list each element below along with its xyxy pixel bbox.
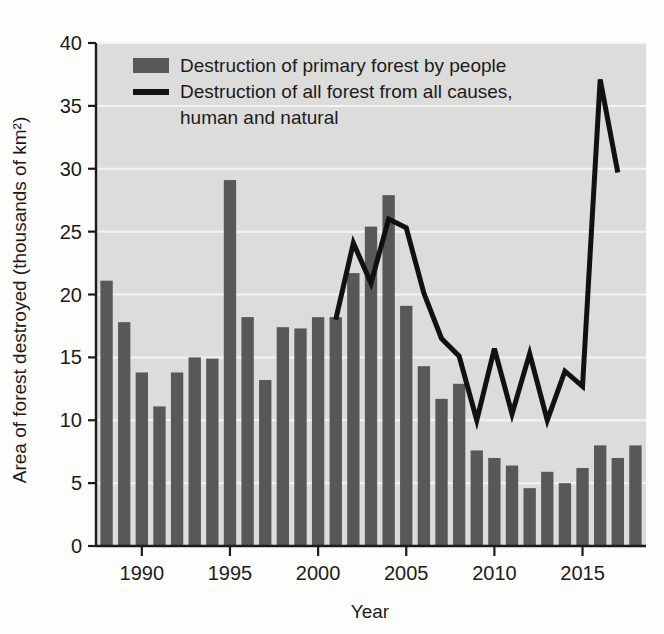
- x-axis-title: Year: [351, 601, 390, 622]
- y-tick-label: 40: [60, 32, 82, 54]
- bar: [294, 328, 306, 546]
- bar: [347, 273, 359, 546]
- bar: [277, 327, 289, 546]
- bar: [382, 195, 394, 546]
- x-tick-label: 2000: [296, 562, 341, 584]
- y-tick-label: 25: [60, 221, 82, 243]
- bar: [506, 466, 518, 546]
- bar: [418, 366, 430, 546]
- y-tick-label: 10: [60, 409, 82, 431]
- bar: [136, 372, 148, 546]
- bar: [435, 399, 447, 546]
- bar: [400, 306, 412, 546]
- y-axis-title: Area of forest destroyed (thousands of k…: [9, 117, 30, 483]
- legend-swatch-bar-icon: [133, 58, 169, 73]
- legend-label-all-forest-line1: Destruction of all forest from all cause…: [180, 81, 513, 102]
- bar: [629, 445, 641, 546]
- chart-figure: 0510152025303540 19901995200020052010201…: [0, 0, 664, 634]
- bar: [471, 450, 483, 546]
- bar: [259, 380, 271, 546]
- y-tick-label: 35: [60, 95, 82, 117]
- bar: [488, 458, 500, 546]
- x-tick-label: 2005: [384, 562, 429, 584]
- legend-label-all-forest-line2: human and natural: [180, 107, 338, 128]
- legend-label-primary-forest: Destruction of primary forest by people: [180, 55, 506, 76]
- bar: [118, 322, 130, 546]
- bar: [100, 281, 112, 546]
- bar: [153, 406, 165, 546]
- bar: [206, 359, 218, 546]
- x-tick-label: 1995: [208, 562, 253, 584]
- bar: [612, 458, 624, 546]
- bar: [594, 445, 606, 546]
- legend-swatch-line-icon: [133, 89, 169, 95]
- bar: [559, 483, 571, 546]
- bar: [224, 180, 236, 546]
- bar: [330, 317, 342, 546]
- bar: [171, 372, 183, 546]
- forest-destruction-chart: 0510152025303540 19901995200020052010201…: [0, 0, 664, 634]
- bar: [523, 488, 535, 546]
- x-tick-label: 1990: [120, 562, 165, 584]
- bar: [453, 384, 465, 546]
- y-tick-label: 20: [60, 284, 82, 306]
- bar: [189, 357, 201, 546]
- bar: [541, 472, 553, 546]
- bar: [576, 468, 588, 546]
- bar: [312, 317, 324, 546]
- y-tick-label: 0: [71, 535, 82, 557]
- bar: [241, 317, 253, 546]
- x-tick-label: 2010: [472, 562, 517, 584]
- x-tick-label: 2015: [560, 562, 605, 584]
- y-tick-label: 5: [71, 472, 82, 494]
- y-tick-label: 15: [60, 346, 82, 368]
- y-tick-label: 30: [60, 158, 82, 180]
